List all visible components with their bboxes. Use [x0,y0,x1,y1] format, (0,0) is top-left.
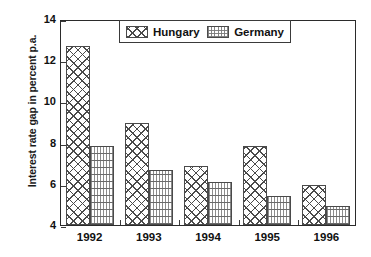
y-axis-tick-labels: 468101214 [28,0,56,257]
bar-germany-1992 [90,146,114,225]
bar-germany-1994 [208,182,232,225]
x-axis-tick-label-1995: 1995 [237,231,297,243]
legend-label-hungary: Hungary [153,26,200,38]
y-axis-tick-label: 6 [32,179,56,190]
y-axis-tick-label: 8 [32,138,56,149]
x-axis-tick-label-1996: 1996 [296,231,356,243]
bar-hungary-1992 [66,46,90,225]
legend-entry-hungary: Hungary [126,26,200,38]
y-axis-tick-label: 10 [32,96,56,107]
legend-entry-germany: Germany [207,26,284,38]
x-axis-tick-label-1992: 1992 [60,231,120,243]
bar-germany-1996 [326,206,350,225]
plot-area [60,20,356,226]
bar-hungary-1995 [243,146,267,225]
y-axis-tick-label: 14 [32,14,56,25]
bar-chart: Interest rate gap in percent p.a. 468101… [0,0,371,257]
x-axis-tick-mark [239,220,240,225]
chart-legend: Hungary Germany [119,20,291,43]
y-axis-title-container: Interest rate gap in percent p.a. [0,0,30,232]
x-axis-tick-mark [179,220,180,225]
bar-germany-1995 [267,196,291,225]
legend-label-germany: Germany [234,26,284,38]
x-axis-tick-mark [298,220,299,225]
bar-hungary-1994 [184,166,208,225]
legend-swatch-germany-icon [207,26,229,38]
y-axis-tick-label: 4 [32,220,56,231]
bar-germany-1993 [149,170,173,225]
y-axis-tick-label: 12 [32,55,56,66]
x-axis-tick-label-1993: 1993 [119,231,179,243]
x-axis-tick-mark [120,220,121,225]
y-axis-tick-mark [61,21,66,22]
bar-hungary-1993 [125,123,149,225]
x-axis-tick-label-1994: 1994 [178,231,238,243]
y-axis-tick-mark [61,227,66,228]
bar-hungary-1996 [302,185,326,225]
legend-swatch-hungary-icon [126,26,148,38]
